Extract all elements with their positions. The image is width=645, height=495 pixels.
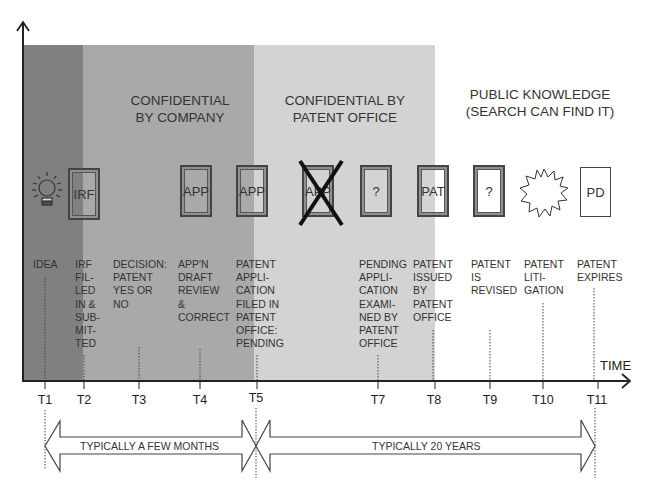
tick-label-t11: T11 — [587, 393, 608, 407]
event-label-t7: PENDING APPLI- CATION EXAMI- NED BY PATE… — [359, 258, 407, 350]
event-label-t10: PATENT LITI- GATION — [524, 258, 564, 298]
document-label: PD — [586, 185, 604, 200]
document-icon-app-filed: APP — [236, 165, 268, 217]
cross-out-icon — [296, 157, 346, 229]
crossed-out-document-icon: APP — [302, 165, 334, 217]
event-label-t4: APP'N DRAFT REVIEW & CORRECT — [178, 258, 230, 324]
tick-label-t4: T4 — [193, 393, 208, 407]
span-label-20-years: TYPICALLY 20 YEARS — [372, 440, 481, 452]
document-icon-revised: ? — [473, 165, 505, 217]
event-label-t5: PATENT APPLI- CATION FILED IN PATENT OFF… — [236, 258, 284, 350]
starburst-icon — [518, 165, 570, 221]
tick-label-t8: T8 — [427, 393, 442, 407]
document-label: IRF — [74, 187, 95, 202]
tick-label-t2: T2 — [77, 393, 92, 407]
document-label: APP — [239, 184, 265, 199]
document-icon-app-draft: APP — [180, 165, 212, 217]
event-label-t3: DECISION: PATENT YES OR NO — [113, 258, 167, 311]
event-label-t8: PATENT ISSUED BY PATENT OFFICE — [413, 258, 453, 324]
document-icon-pending: ? — [360, 165, 392, 217]
tick-label-t9: T9 — [483, 393, 498, 407]
document-label: APP — [183, 184, 209, 199]
x-axis-label: TIME — [600, 358, 631, 373]
event-label-t11: PATENT EXPIRES — [577, 258, 623, 284]
document-icon-patent: PAT — [417, 165, 449, 217]
span-label-few-months: TYPICALLY A FEW MONTHS — [80, 440, 219, 452]
tick-label-t5: T5 — [249, 391, 264, 405]
document-icon-irf: IRF — [68, 168, 100, 220]
event-label-t1: IDEA — [33, 258, 58, 271]
document-label: ? — [485, 184, 492, 199]
tick-label-t3: T3 — [132, 393, 147, 407]
document-label: ? — [372, 184, 379, 199]
tick-label-t10: T10 — [532, 393, 554, 407]
timeline-axes — [0, 0, 645, 495]
event-label-t2: IRF FIL- LED IN & SUB- MIT- TED — [75, 258, 100, 350]
event-label-t9: PATENT IS REVISED — [471, 258, 517, 298]
document-label: PAT — [421, 184, 444, 199]
plain-document-icon-pd: PD — [580, 167, 611, 217]
tick-label-t7: T7 — [371, 393, 386, 407]
tick-label-t1: T1 — [38, 393, 53, 407]
lightbulb-icon — [30, 168, 64, 212]
